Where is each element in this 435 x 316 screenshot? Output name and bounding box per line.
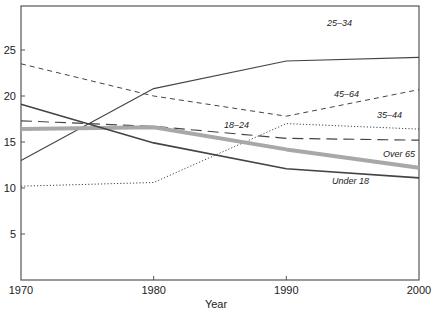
y-axis-ticks: 510152025 [4,44,25,240]
series-label: 25–34 [326,18,352,28]
y-tick-label: 15 [4,136,16,148]
series-lines [21,57,419,186]
x-axis-ticks: 1970198019902000 [9,276,431,296]
y-tick-label: 20 [4,90,16,102]
y-tick-label: 25 [4,44,16,56]
x-tick-label: 1970 [9,284,33,296]
line-chart: 510152025 1970198019902000 25–3445–6435–… [0,0,435,316]
series-label: Over 65 [383,149,416,159]
x-tick-label: 1980 [141,284,165,296]
y-tick-label: 10 [4,182,16,194]
x-axis-title: Year [205,298,228,310]
series-label: 18–24 [224,120,249,130]
x-tick-label: 1990 [274,284,298,296]
series-label: 35–44 [377,110,402,120]
series-line-45-64 [21,64,419,116]
plot-frame [21,6,419,280]
series-line-under-18 [21,104,419,178]
y-tick-label: 5 [10,228,16,240]
series-line-over-65 [21,127,419,168]
series-label: 45–64 [334,89,359,99]
series-line-25-34 [21,57,419,160]
x-tick-label: 2000 [407,284,431,296]
series-labels: 25–3445–6435–4418–24Over 65Under 18 [224,18,416,186]
series-label: Under 18 [332,176,369,186]
